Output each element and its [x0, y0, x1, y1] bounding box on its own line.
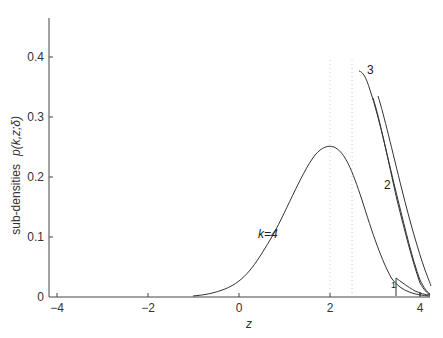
y-tick-label: 0.4 [27, 50, 44, 64]
x-ticks [57, 293, 420, 297]
y-axis-label-text: sub-densities [9, 164, 23, 235]
sub-densities-chart: 0 0.1 0.2 0.3 0.4 −4 −2 0 2 4 z sub-dens… [0, 0, 443, 338]
x-tick-label: −4 [50, 301, 64, 315]
x-tick-label: 2 [327, 301, 334, 315]
x-tick-label: 4 [417, 301, 424, 315]
curve-label-k1: 1 [391, 280, 396, 290]
y-axis-label: sub-densities p(k,z;δ) [9, 116, 23, 235]
x-tick-labels: −4 −2 0 2 4 [50, 301, 424, 315]
x-tick-label: 0 [236, 301, 243, 315]
curve-k3 [359, 71, 430, 294]
x-tick-label: −2 [141, 301, 155, 315]
curve-k4 [193, 146, 430, 296]
y-tick-label: 0.2 [27, 170, 44, 184]
y-axis-label-math: p(k,z;δ) [9, 116, 23, 157]
y-tick-label: 0.1 [27, 230, 44, 244]
curve-label-k2: 2 [384, 178, 391, 192]
y-tick-label: 0.3 [27, 110, 44, 124]
y-tick-labels: 0 0.1 0.2 0.3 0.4 [27, 50, 44, 304]
curve-label-k3: 3 [367, 63, 374, 77]
y-ticks [49, 57, 53, 237]
curve-label-k4: k=4 [258, 227, 278, 241]
dotted-guides [330, 60, 352, 296]
y-tick-label: 0 [37, 290, 44, 304]
x-axis-label: z [245, 317, 252, 331]
curve-k2-inner [373, 98, 430, 295]
